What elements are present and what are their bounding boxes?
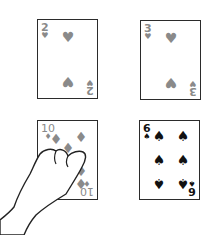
spade-icon: ♠: [177, 129, 190, 143]
card-2-hearts[interactable]: 2 ♥ ♥ ♥ 2 ♥: [37, 19, 98, 99]
heart-icon: ♥: [87, 78, 94, 86]
spade-icon: ♠: [189, 179, 196, 187]
heart-icon: ♥: [190, 79, 197, 87]
heart-icon: ♥: [144, 33, 151, 41]
card-6-spades[interactable]: 6 ♠ ♠ ♠ ♠ ♠ ♠ ♠ 6 ♠: [139, 120, 200, 200]
heart-icon: ♥: [41, 32, 48, 40]
card-10-diamonds[interactable]: 10 ♦ ♦ ♦ ♦ ♦ ♦ ♦ 10 ♦: [37, 120, 98, 200]
spade-icon: ♠: [153, 177, 166, 191]
card-corner-bottom: 10 ♦: [80, 179, 94, 197]
card-corner-bottom: 2 ♥: [86, 78, 94, 96]
diamond-icon: ♦: [83, 179, 90, 187]
spade-icon: ♠: [143, 133, 150, 141]
spade-icon: ♠: [153, 129, 166, 143]
heart-icon: ♥: [62, 75, 75, 89]
diamond-icon: ♦: [75, 130, 88, 144]
diamond-icon: ♦: [50, 132, 63, 146]
heart-icon: ♥: [165, 31, 178, 45]
heart-icon: ♥: [165, 76, 178, 90]
card-corner-top: 3 ♥: [144, 23, 152, 41]
spade-icon: ♠: [153, 153, 166, 167]
card-corner-bottom: 6 ♠: [188, 179, 196, 197]
card-corner-bottom: 3 ♥: [189, 79, 197, 97]
card-3-hearts[interactable]: 3 ♥ ♥ ♥ 3 ♥: [140, 20, 201, 100]
diamond-icon: ♦: [75, 150, 88, 164]
card-corner-top: 6 ♠: [143, 123, 151, 141]
diamond-icon: ♦: [62, 141, 75, 155]
heart-icon: ♥: [62, 30, 75, 44]
spade-icon: ♠: [177, 153, 190, 167]
card-corner-top: 2 ♥: [41, 22, 49, 40]
